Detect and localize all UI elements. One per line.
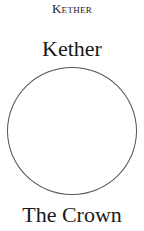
section-heading: Kether — [0, 1, 144, 17]
sephirah-circle — [7, 67, 137, 195]
sephirah-title: The Crown — [0, 202, 144, 228]
sephirah-name: Kether — [0, 36, 144, 62]
